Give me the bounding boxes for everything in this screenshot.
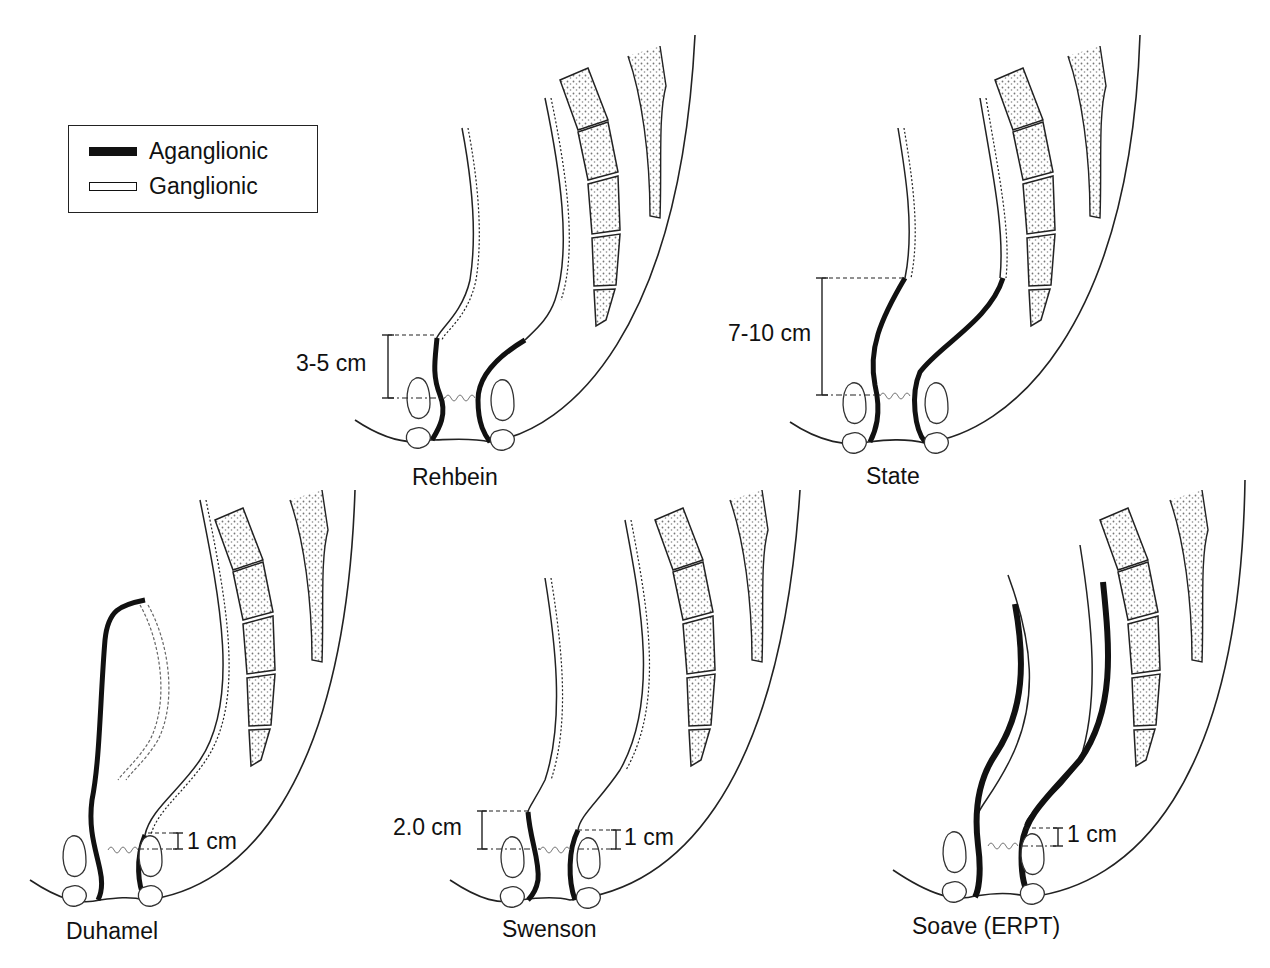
panel-title-rehbein: Rehbein [412, 464, 498, 491]
legend-item-ganglionic: Ganglionic [89, 173, 258, 199]
legend-label: Ganglionic [149, 173, 258, 199]
aganglionic-swatch-icon [89, 147, 137, 156]
panel-title-soave: Soave (ERPT) [912, 913, 1060, 940]
legend-label: Aganglionic [149, 138, 268, 164]
legend: Aganglionic Ganglionic [68, 125, 318, 213]
measurement-swenson-small: 1 cm [624, 824, 674, 851]
measurement-rehbein: 3-5 cm [296, 350, 366, 377]
panel-title-duhamel: Duhamel [66, 918, 158, 945]
panel-state [790, 35, 1140, 453]
measurement-soave-small: 1 cm [1067, 821, 1117, 848]
ganglionic-swatch-icon [89, 182, 137, 191]
measurement-duhamel-small: 1 cm [187, 828, 237, 855]
panel-title-swenson: Swenson [502, 916, 597, 943]
panel-rehbein [355, 35, 695, 450]
panel-title-state: State [866, 463, 920, 490]
measurement-state: 7-10 cm [728, 320, 811, 347]
measurement-swenson: 2.0 cm [393, 814, 462, 841]
legend-item-aganglionic: Aganglionic [89, 138, 268, 164]
